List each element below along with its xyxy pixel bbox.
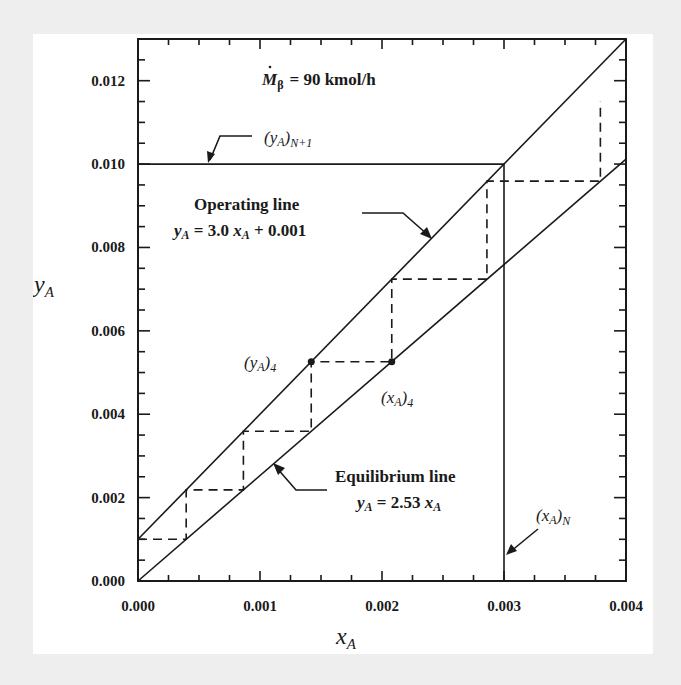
y-tick-label: 0.008: [91, 239, 125, 255]
label-yN1: (yA)N+1: [264, 128, 312, 150]
x-tick-label: 0.001: [243, 598, 277, 614]
data-point: [388, 358, 395, 365]
data-point: [308, 358, 315, 365]
x-tick-label: 0.000: [121, 598, 155, 614]
y-tick-label: 0.004: [91, 406, 125, 422]
arrow-head-icon: [273, 463, 285, 475]
equilibrium-line-title: Equilibrium line: [335, 467, 456, 486]
operating-line: [138, 39, 626, 539]
equilibrium-line-equation: yA = 2.53 xA: [355, 493, 441, 514]
arrow-equilibrium-line: [276, 467, 327, 490]
arrow-operating-line: [362, 213, 428, 235]
x-tick-label: 0.002: [365, 598, 399, 614]
flow-rate-annotation: Mβ= 90 kmol/h: [261, 70, 376, 92]
label-xA4: (xA)4: [381, 388, 413, 410]
label-yA4: (yA)4: [244, 353, 276, 375]
x-axis-label: xA: [335, 623, 357, 652]
operating-line-title: Operating line: [194, 195, 300, 214]
tick-labels: 0.0000.0010.0020.0030.0040.0000.0020.004…: [91, 73, 643, 614]
operating-line-equation: yA = 3.0 xA + 0.001: [172, 221, 306, 242]
mccabe-thiele-chart: 0.0000.0010.0020.0030.0040.0000.0020.004…: [33, 34, 653, 654]
x-tick-label: 0.004: [609, 598, 643, 614]
y-tick-label: 0.002: [91, 490, 125, 506]
y-axis-label: yA: [33, 271, 55, 300]
chart-panel: 0.0000.0010.0020.0030.0040.0000.0020.004…: [33, 34, 653, 654]
arrow-head-icon: [506, 544, 517, 555]
y-tick-label: 0.012: [91, 73, 125, 89]
y-tick-label: 0.006: [91, 323, 125, 339]
label-xAN: (xA)N: [536, 506, 571, 528]
dot-accent: [269, 66, 272, 69]
arrow-yN1: [210, 136, 252, 160]
x-tick-label: 0.003: [487, 598, 521, 614]
y-tick-label: 0.000: [91, 573, 125, 589]
y-tick-label: 0.010: [91, 156, 125, 172]
